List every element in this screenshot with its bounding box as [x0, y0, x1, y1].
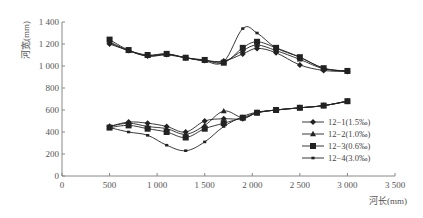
y-tick-label: 1 400 — [39, 17, 60, 27]
series-upper — [108, 27, 349, 73]
small-square-marker-icon — [322, 67, 325, 70]
small-square-marker-icon — [127, 49, 130, 52]
small-square-marker-icon — [146, 55, 149, 58]
legend-label: 12−3(0.6‰) — [328, 141, 370, 151]
square-marker-icon — [240, 45, 246, 51]
small-square-marker-icon — [222, 125, 225, 128]
legend-label: 12−4(3.0‰) — [328, 153, 370, 163]
small-square-marker-icon — [165, 54, 168, 57]
legend-label: 12−2(1.0‰) — [328, 129, 370, 139]
square-marker-icon — [310, 143, 316, 149]
small-square-marker-icon — [298, 56, 301, 59]
x-tick-label: 1 500 — [195, 180, 216, 190]
y-tick-label: 800 — [46, 83, 60, 93]
legend-item: 12−4(3.0‰) — [302, 153, 370, 163]
small-square-marker-icon — [165, 144, 168, 147]
small-square-marker-icon — [346, 100, 349, 103]
y-tick-label: 0 — [55, 171, 60, 181]
series-lower — [107, 98, 351, 135]
legend: 12−1(1.5‰)12−2(1.0‰)12−3(0.6‰)12−4(3.0‰) — [302, 117, 370, 163]
x-tick-label: 500 — [103, 180, 117, 190]
small-square-marker-icon — [108, 126, 111, 129]
small-square-marker-icon — [274, 109, 277, 112]
x-tick-label: 3 500 — [385, 180, 406, 190]
x-axis-title: 河长(mm) — [369, 195, 407, 206]
x-tick-label: 2 000 — [242, 180, 263, 190]
small-square-marker-icon — [346, 70, 349, 73]
small-square-marker-icon — [203, 141, 206, 144]
series-upper — [107, 39, 351, 74]
small-square-marker-icon — [222, 60, 225, 63]
legend-item: 12−1(1.5‰) — [302, 117, 370, 127]
small-square-marker-icon — [298, 107, 301, 110]
small-square-marker-icon — [322, 104, 325, 107]
x-tick-label: 3 000 — [337, 180, 358, 190]
square-marker-icon — [145, 126, 151, 132]
x-tick-label: 2 500 — [290, 180, 311, 190]
small-square-marker-icon — [241, 115, 244, 118]
legend-label: 12−1(1.5‰) — [328, 117, 370, 127]
y-tick-label: 400 — [46, 127, 60, 137]
square-marker-icon — [164, 129, 170, 135]
y-tick-label: 200 — [46, 149, 60, 159]
square-marker-icon — [183, 135, 189, 141]
small-square-marker-icon — [146, 134, 149, 137]
small-square-marker-icon — [108, 42, 111, 45]
diamond-marker-icon — [297, 62, 303, 68]
square-marker-icon — [126, 122, 132, 128]
axes: 05001 0001 5002 0002 5003 0003 500020040… — [39, 17, 406, 190]
series-upper — [107, 41, 351, 75]
small-square-marker-icon — [255, 111, 258, 114]
series-lower — [107, 98, 351, 136]
triangle-marker-icon — [310, 131, 316, 136]
y-axis-title: 河宽(mm) — [20, 21, 31, 59]
y-tick-label: 1 000 — [39, 61, 60, 71]
y-tick-label: 1 200 — [39, 39, 60, 49]
small-square-marker-icon — [274, 47, 277, 50]
small-square-marker-icon — [184, 56, 187, 59]
small-square-marker-icon — [241, 27, 244, 30]
square-marker-icon — [202, 126, 208, 132]
square-marker-icon — [254, 39, 260, 45]
y-tick-label: 600 — [46, 105, 60, 115]
small-square-marker-icon — [127, 131, 130, 134]
small-square-marker-icon — [255, 32, 258, 35]
line-chart: 05001 0001 5002 0002 5003 0003 500020040… — [0, 0, 423, 218]
x-tick-label: 0 — [60, 180, 65, 190]
small-square-marker-icon — [184, 149, 187, 152]
legend-item: 12−3(0.6‰) — [302, 141, 370, 151]
legend-item: 12−2(1.0‰) — [302, 129, 370, 139]
small-square-marker-icon — [311, 157, 314, 160]
diamond-marker-icon — [310, 119, 316, 125]
small-square-marker-icon — [203, 60, 206, 63]
x-tick-label: 1 000 — [147, 180, 168, 190]
